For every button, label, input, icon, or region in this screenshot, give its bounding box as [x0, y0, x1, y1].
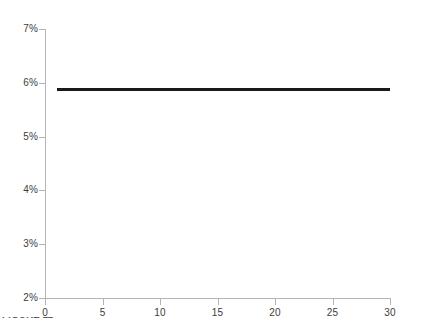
y-axis-tick-label: 4%: [0, 185, 38, 195]
y-axis-tick: [39, 29, 45, 30]
caption-fragment: FIGURE 11: [2, 317, 122, 327]
x-axis-tick: [160, 299, 161, 305]
x-axis-tick-label: 25: [313, 308, 353, 318]
y-axis-tick-label: 5%: [0, 132, 38, 142]
x-axis-tick-label: 10: [140, 308, 180, 318]
x-axis-tick: [45, 299, 46, 305]
x-axis-tick: [333, 299, 334, 305]
chart-figure: 2%3%4%5%6%7% 051015202530 FIGURE 11: [0, 0, 430, 327]
y-axis-tick: [39, 244, 45, 245]
series-line: [57, 88, 391, 91]
y-axis-tick-label: 7%: [0, 24, 38, 34]
x-axis-tick: [390, 299, 391, 305]
x-axis-tick-label: 15: [198, 308, 238, 318]
y-axis-tick-label: 6%: [0, 78, 38, 88]
y-axis-tick: [39, 190, 45, 191]
y-axis-tick-label: 2%: [0, 293, 38, 303]
x-axis-tick-label: 20: [255, 308, 295, 318]
y-axis-tick: [39, 83, 45, 84]
y-axis-tick: [39, 137, 45, 138]
x-axis-tick: [275, 299, 276, 305]
y-axis-tick-label: 3%: [0, 239, 38, 249]
y-axis-line: [45, 29, 46, 299]
x-axis-tick-label: 30: [370, 308, 410, 318]
x-axis-tick: [103, 299, 104, 305]
x-axis-tick: [218, 299, 219, 305]
caption-fragment-text: FIGURE 11: [2, 317, 122, 320]
